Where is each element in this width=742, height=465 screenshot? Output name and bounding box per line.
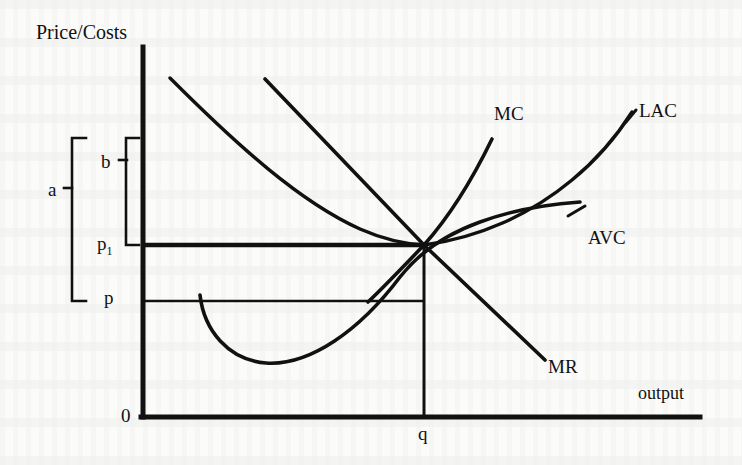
x-axis-title: output — [638, 384, 684, 402]
curve-label-mr: MR — [548, 357, 578, 376]
mc-curve — [368, 139, 492, 302]
label-leader-lines — [568, 110, 636, 216]
bracket-label-b: b — [101, 152, 111, 171]
curve-label-mc: MC — [494, 104, 524, 123]
price-tick-label-p1-subscript: 1 — [107, 244, 113, 258]
curve-label-lac: LAC — [639, 101, 677, 120]
demand-curve — [170, 78, 424, 245]
avc-label-leader — [568, 206, 585, 216]
price-tick-label-p: p — [104, 288, 114, 307]
price-tick-label-p1: p1 — [97, 234, 113, 257]
cost-curve-figure: Price/Costs output 0 q a b p1 p MC LAC A… — [0, 0, 742, 465]
bracket-label-a: a — [48, 180, 56, 199]
price-tick-label-p1-base: p — [97, 233, 107, 254]
lac-curve — [424, 112, 632, 245]
y-axis-title: Price/Costs — [36, 22, 127, 42]
bracket-b — [119, 138, 139, 245]
quantity-tick-label-q: q — [418, 424, 428, 443]
bracket-a — [64, 138, 86, 301]
diagram-canvas — [0, 0, 742, 465]
origin-label: 0 — [121, 406, 131, 425]
curve-label-avc: AVC — [588, 228, 626, 247]
